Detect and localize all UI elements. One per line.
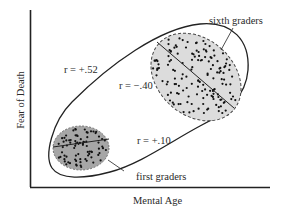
data-point	[206, 94, 208, 96]
data-point	[65, 163, 67, 165]
data-point	[67, 161, 69, 163]
data-point	[198, 51, 200, 53]
data-point	[152, 67, 154, 69]
data-point	[196, 42, 198, 44]
data-point	[76, 165, 78, 167]
data-point	[74, 128, 76, 130]
data-point	[63, 141, 65, 143]
data-point	[191, 83, 193, 85]
data-point	[183, 111, 185, 113]
data-point	[201, 90, 203, 92]
sixth-graders-ellipse	[133, 15, 258, 138]
data-point	[89, 151, 91, 153]
data-point	[77, 153, 79, 155]
data-point	[87, 132, 89, 134]
data-point	[82, 144, 84, 146]
data-point	[225, 62, 227, 64]
overall-correlation-label: r = +.52	[64, 64, 98, 75]
data-point	[193, 110, 195, 112]
data-point	[168, 39, 170, 41]
data-point	[182, 89, 184, 91]
data-point	[212, 77, 214, 79]
first-graders-cluster	[53, 126, 109, 170]
data-point	[219, 67, 221, 69]
data-point	[61, 137, 63, 139]
data-point	[216, 60, 218, 62]
y-axis-label: Fear of Death	[15, 70, 26, 128]
data-point	[223, 66, 225, 68]
data-point	[222, 72, 224, 74]
data-point	[209, 45, 211, 47]
data-point	[68, 139, 70, 141]
data-point	[173, 47, 175, 49]
data-point	[212, 98, 214, 100]
data-point	[80, 138, 82, 140]
data-point	[204, 88, 206, 90]
data-point	[217, 96, 219, 98]
data-point	[182, 73, 184, 75]
data-point	[212, 93, 214, 95]
data-point	[65, 156, 67, 158]
data-point	[174, 83, 176, 85]
data-point	[219, 99, 221, 101]
data-point	[86, 136, 88, 138]
data-point	[223, 102, 225, 104]
data-point	[201, 59, 203, 61]
data-point	[167, 43, 169, 45]
data-point	[178, 93, 180, 95]
data-point	[161, 80, 163, 82]
first-graders-correlation-label: r = +.10	[137, 135, 171, 146]
data-point	[203, 48, 205, 50]
data-point	[87, 151, 89, 153]
data-point	[197, 59, 199, 61]
diagram-canvas: r = +.52 r = −.40 r = +.10 sixth graders…	[0, 0, 282, 218]
data-point	[84, 158, 86, 160]
data-point	[211, 95, 213, 97]
data-point	[191, 66, 193, 68]
data-point	[210, 68, 212, 70]
data-point	[92, 130, 94, 132]
data-point	[58, 143, 60, 145]
data-point	[222, 52, 224, 54]
data-point	[191, 59, 193, 61]
data-point	[221, 83, 223, 85]
data-point	[226, 58, 228, 60]
data-point	[62, 146, 64, 148]
data-point	[221, 112, 223, 114]
data-point	[100, 159, 102, 161]
sixth-graders-correlation-label: r = −.40	[119, 80, 153, 91]
data-point	[167, 94, 169, 96]
data-point	[170, 59, 172, 61]
data-point	[65, 134, 67, 136]
data-point	[88, 153, 90, 155]
data-point	[225, 84, 227, 86]
data-point	[188, 95, 190, 97]
data-point	[192, 53, 194, 55]
data-point	[74, 140, 76, 142]
data-point	[191, 103, 193, 105]
data-point	[218, 72, 220, 74]
data-point	[97, 142, 99, 144]
data-point	[178, 85, 180, 87]
data-point	[79, 161, 81, 163]
data-point	[186, 101, 188, 103]
data-point	[216, 71, 218, 73]
sixth-graders-pointer	[221, 28, 233, 50]
data-point	[63, 158, 65, 160]
data-point	[75, 155, 77, 157]
data-point	[80, 165, 82, 167]
data-point	[179, 103, 181, 105]
data-point	[221, 78, 223, 80]
data-point	[218, 110, 220, 112]
data-point	[174, 78, 176, 80]
data-point	[155, 74, 157, 76]
data-point	[97, 154, 99, 156]
data-point	[232, 95, 234, 97]
data-point	[197, 86, 199, 88]
data-point	[167, 81, 169, 83]
data-point	[229, 92, 231, 94]
data-point	[75, 160, 77, 162]
data-point	[166, 83, 168, 85]
data-point	[157, 63, 159, 65]
data-point	[196, 93, 198, 95]
